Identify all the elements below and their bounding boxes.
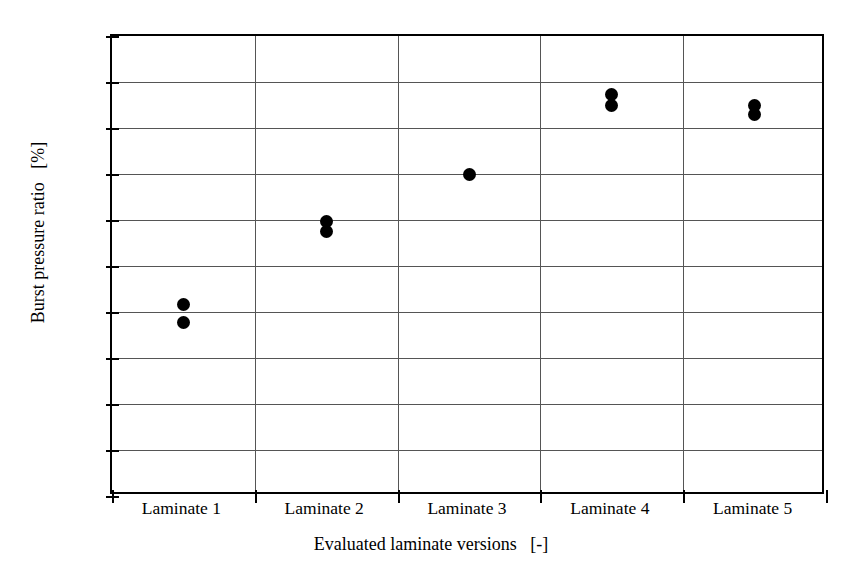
y-axis-tick — [106, 450, 119, 452]
y-gridline — [112, 358, 822, 359]
plot-area — [110, 34, 824, 494]
x-axis-category-label: Laminate 5 — [663, 500, 843, 518]
scatter-chart: 80859095100105110115120125130 Laminate 1… — [0, 0, 862, 578]
x-gridline — [540, 36, 541, 492]
x-gridline — [683, 36, 684, 492]
x-gridline — [255, 36, 256, 492]
data-point — [177, 298, 190, 311]
y-axis-tick — [106, 266, 119, 268]
y-axis-tick — [106, 312, 119, 314]
y-axis-tick — [106, 174, 119, 176]
data-point — [320, 225, 333, 238]
y-gridline — [112, 82, 822, 83]
x-gridline — [398, 36, 399, 492]
y-axis-tick — [106, 404, 119, 406]
y-axis-tick — [106, 82, 119, 84]
y-axis-tick — [106, 220, 119, 222]
y-gridline — [112, 220, 822, 221]
x-axis-title: Evaluated laminate versions [-] — [0, 534, 862, 555]
y-axis-tick — [106, 36, 119, 38]
data-point — [463, 168, 476, 181]
y-gridline — [112, 450, 822, 451]
y-gridline — [112, 266, 822, 267]
y-gridline — [112, 312, 822, 313]
y-axis-tick — [106, 358, 119, 360]
data-point — [605, 99, 618, 112]
y-axis-tick — [106, 128, 119, 130]
data-point — [748, 108, 761, 121]
y-gridline — [112, 128, 822, 129]
y-axis-title: Burst pressure ratio [%] — [28, 23, 49, 443]
y-gridline — [112, 404, 822, 405]
data-point — [177, 316, 190, 329]
